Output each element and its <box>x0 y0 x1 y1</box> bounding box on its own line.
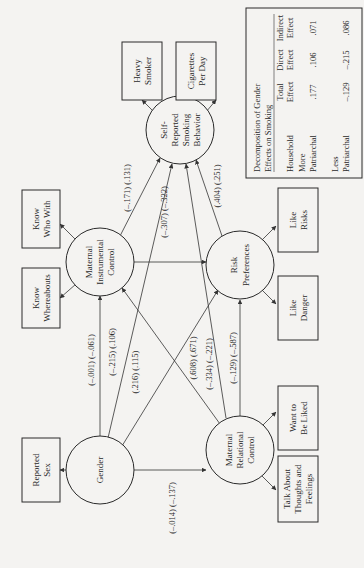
svg-text:Maternal: Maternal <box>84 245 94 278</box>
svg-text:Reported: Reported <box>170 113 180 146</box>
coef-risk-smoking: (.404) (.251) <box>212 164 222 207</box>
coef-mic-risk: (–.307) (–.322) <box>159 186 169 238</box>
coef-gender-mrc: (–.014) (–.137) <box>167 482 177 534</box>
coef-mrc-risk: (–.129) (–.587) <box>228 332 238 384</box>
svg-text:Smoker: Smoker <box>143 57 153 85</box>
svg-text:Cigarettes: Cigarettes <box>186 52 196 89</box>
indicator-cigarettes-per-day <box>176 42 216 100</box>
svg-text:Patriarchal: Patriarchal <box>308 135 318 172</box>
svg-text:Risks: Risks <box>299 210 309 231</box>
coef-gender-risk: (.216) (.115) <box>130 350 140 393</box>
svg-text:Preferences: Preferences <box>241 244 251 286</box>
svg-text:Whereabouts: Whereabouts <box>42 274 52 322</box>
indicator-like-risks <box>278 188 318 252</box>
svg-text:Less: Less <box>330 156 340 172</box>
svg-text:Heavy: Heavy <box>132 59 142 83</box>
svg-text:Patriarchal: Patriarchal <box>341 135 351 172</box>
indicator-know-who-with <box>22 190 60 248</box>
svg-text:Control: Control <box>106 248 116 276</box>
svg-text:Who With: Who With <box>42 200 52 238</box>
svg-text:Reported: Reported <box>31 453 41 486</box>
svg-text:Per Day: Per Day <box>197 56 207 86</box>
table-header-household: Household <box>285 134 295 172</box>
svg-text:Behavior: Behavior <box>192 114 202 147</box>
latent-risk-preferences <box>206 231 274 299</box>
svg-text:Sex: Sex <box>42 463 52 477</box>
latent-smoking-behavior <box>146 96 214 164</box>
svg-text:Know: Know <box>31 287 41 309</box>
svg-text:Relational: Relational <box>235 431 245 468</box>
svg-text:Effect: Effect <box>285 49 295 70</box>
indicator-like-danger <box>278 276 318 340</box>
indicator-reported-sex <box>22 438 60 502</box>
svg-text:Maternal: Maternal <box>224 433 234 466</box>
svg-text:Like: Like <box>288 300 298 317</box>
svg-text:.177: .177 <box>308 85 318 100</box>
svg-text:Effect: Effect <box>285 81 295 102</box>
svg-text:Thoughts and: Thoughts and <box>293 464 303 514</box>
svg-text:Direct: Direct <box>275 49 285 71</box>
indicator-want-to-be-liked <box>278 386 318 450</box>
coef-mrc-mic: (.608) (.671) <box>188 336 198 379</box>
svg-text:Like: Like <box>288 212 298 229</box>
svg-text:–.215: –.215 <box>341 50 351 70</box>
table-title-line2: Effects on Smoking <box>263 104 273 172</box>
svg-text:Self-: Self- <box>159 121 169 139</box>
path-diagram: Gender Maternal Instrumental Control Sel… <box>0 0 364 568</box>
svg-text:–.129: –.129 <box>341 82 351 102</box>
svg-text:Want to: Want to <box>288 403 298 432</box>
svg-text:Instrumental: Instrumental <box>95 239 105 285</box>
label-gender: Gender <box>95 457 105 484</box>
coef-mic-smoking: (–.171) (.131) <box>122 164 132 212</box>
svg-text:Feelings: Feelings <box>304 473 314 504</box>
svg-text:More: More <box>297 153 307 172</box>
svg-text:.086: .086 <box>341 21 351 36</box>
indicator-heavy-smoker <box>122 42 162 100</box>
svg-text:Effect: Effect <box>285 17 295 38</box>
indicator-know-whereabouts <box>22 268 60 328</box>
svg-text:Total: Total <box>275 83 285 101</box>
svg-text:Be Liked: Be Liked <box>299 401 309 435</box>
coef-gender-smoking: (–.215) (.106) <box>107 328 117 376</box>
svg-text:Talk About: Talk About <box>282 468 292 509</box>
table-title-line1: Decomposition of Gender <box>252 84 262 172</box>
svg-text:Smoking: Smoking <box>181 113 191 146</box>
svg-text:.071: .071 <box>308 21 318 36</box>
svg-text:Indirect: Indirect <box>275 14 285 41</box>
coef-mrc-smoking: (–.334) (–.221) <box>204 338 214 390</box>
svg-text:Risk: Risk <box>229 256 239 273</box>
coef-gender-mic: (–.001) (–.061) <box>86 334 96 386</box>
svg-text:Danger: Danger <box>299 295 309 322</box>
svg-text:.106: .106 <box>308 53 318 68</box>
svg-text:Know: Know <box>31 208 41 230</box>
svg-text:Control: Control <box>246 436 256 464</box>
